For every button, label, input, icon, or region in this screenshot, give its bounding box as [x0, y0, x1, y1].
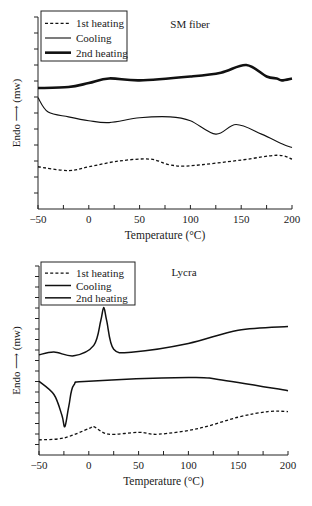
x-tick-label: 150 — [230, 459, 247, 471]
chart-sm-fiber: −50050100150200Temperature (°C)Endo ⟶ (m… — [0, 0, 312, 253]
x-tick-label: 50 — [134, 213, 146, 225]
y-axis-label: Endo ⟶ (mw) — [10, 326, 23, 395]
x-tick-label: 150 — [233, 213, 250, 225]
legend-label: 2nd heating — [76, 292, 128, 304]
legend: 1st heatingCooling2nd heating — [41, 262, 135, 305]
x-tick-label: 200 — [280, 459, 297, 471]
x-tick-label: 0 — [86, 459, 92, 471]
y-axis-label: Endo ⟶ (mw) — [10, 79, 23, 148]
chart-lycra: −50050100150200Temperature (°C)Endo ⟶ (m… — [0, 253, 312, 506]
series-line-2nd-heating — [38, 65, 292, 88]
legend-label: 1st heating — [76, 17, 124, 29]
x-tick-label: −50 — [29, 213, 47, 225]
series-line-cooling — [39, 377, 288, 426]
legend-label: Cooling — [76, 280, 112, 292]
x-tick-label: −50 — [30, 459, 48, 471]
x-tick-label: 100 — [182, 213, 199, 225]
x-axis-label: Temperature (°C) — [123, 475, 204, 488]
series-line-1st-heating — [39, 411, 288, 440]
x-tick-label: 100 — [180, 459, 197, 471]
chart-title: SM fiber — [170, 18, 210, 30]
chart-title: Lycra — [171, 266, 196, 278]
legend-label: 1st heating — [76, 267, 124, 279]
x-tick-label: 200 — [284, 213, 301, 225]
series-line-cooling — [38, 98, 292, 148]
series-line-2nd-heating — [39, 308, 288, 356]
legend: 1st heatingCooling2nd heating — [41, 11, 128, 61]
x-tick-label: 50 — [133, 459, 145, 471]
legend-label: Cooling — [76, 32, 112, 44]
legend-label: 2nd heating — [76, 47, 128, 59]
x-axis-label: Temperature (°C) — [125, 229, 206, 242]
series-line-1st-heating — [38, 155, 292, 170]
x-tick-label: 0 — [86, 213, 92, 225]
